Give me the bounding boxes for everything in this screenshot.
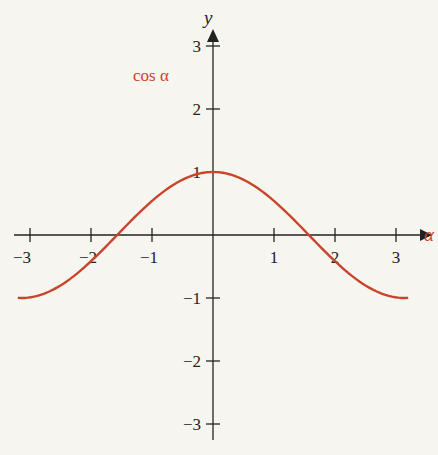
y-tick-label: −1 (183, 289, 201, 308)
y-tick-label: −2 (183, 352, 201, 371)
x-tick-label: 3 (392, 248, 401, 267)
y-tick-label: −3 (183, 415, 201, 434)
y-axis-arrow-icon (207, 29, 219, 42)
y-axis-title: y (202, 7, 213, 28)
cosine-plot: −3 −2 −1 1 2 3 3 2 1 −1 −2 −3 y α cos α (0, 0, 438, 455)
curve-label: cos α (133, 66, 169, 85)
x-tick-label: −1 (140, 248, 158, 267)
x-tick-label: −3 (13, 248, 31, 267)
x-tick-label: 1 (270, 248, 279, 267)
y-tick-label: 2 (193, 100, 202, 119)
x-axis-title: α (424, 224, 435, 245)
y-tick-label: 3 (193, 37, 202, 56)
